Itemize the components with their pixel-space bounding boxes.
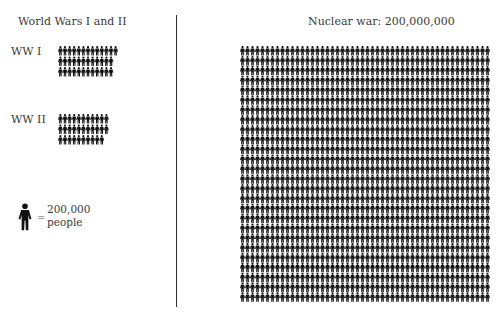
ww2-label: WW II [11, 113, 46, 126]
person-mark [480, 292, 485, 302]
person-mark [295, 282, 300, 292]
person-mark [310, 184, 315, 194]
person-mark [360, 233, 365, 243]
person-mark [400, 253, 405, 263]
person-mark [340, 76, 345, 86]
person-mark [250, 292, 255, 302]
person-mark [285, 145, 290, 155]
person-mark [280, 115, 285, 125]
person-mark [385, 76, 390, 86]
person-mark [240, 76, 245, 86]
person-mark [245, 164, 250, 174]
person-mark [425, 174, 430, 184]
person-mark [365, 204, 370, 214]
person-mark [370, 154, 375, 164]
person-mark [310, 125, 315, 135]
person-mark [395, 46, 400, 56]
person-mark [440, 154, 445, 164]
person-mark [72, 46, 77, 55]
person-mark [430, 135, 435, 145]
person-mark [260, 273, 265, 283]
person-mark [395, 164, 400, 174]
person-mark [415, 292, 420, 302]
person-mark [330, 282, 335, 292]
person-mark [240, 46, 245, 56]
person-mark [290, 154, 295, 164]
person-mark [420, 243, 425, 253]
person-mark [355, 253, 360, 263]
person-mark [445, 56, 450, 66]
person-mark [290, 66, 295, 76]
person-mark [475, 273, 480, 283]
person-mark [385, 95, 390, 105]
person-mark [485, 282, 490, 292]
person-mark [265, 125, 270, 135]
person-mark [335, 282, 340, 292]
person-mark [360, 214, 365, 224]
person-mark [340, 154, 345, 164]
person-mark [445, 243, 450, 253]
person-mark [415, 243, 420, 253]
person-mark [58, 114, 63, 123]
person-mark [370, 194, 375, 204]
person-mark [465, 66, 470, 76]
person-mark [310, 85, 315, 95]
person-mark [395, 95, 400, 105]
person-mark [380, 164, 385, 174]
person-mark [450, 273, 455, 283]
person-mark [480, 154, 485, 164]
person-mark [275, 292, 280, 302]
person-mark [325, 204, 330, 214]
person-mark [485, 95, 490, 105]
person-mark [310, 115, 315, 125]
person-mark [375, 243, 380, 253]
person-mark [295, 105, 300, 115]
person-mark [390, 243, 395, 253]
person-mark [335, 154, 340, 164]
person-mark [67, 46, 72, 55]
person-mark [395, 223, 400, 233]
person-mark [275, 194, 280, 204]
person-mark [280, 214, 285, 224]
person-mark [425, 105, 430, 115]
person-mark [390, 263, 395, 273]
person-mark [390, 115, 395, 125]
person-mark [470, 204, 475, 214]
person-mark [315, 105, 320, 115]
person-mark [250, 66, 255, 76]
person-mark [340, 85, 345, 95]
person-mark [250, 56, 255, 66]
person-mark [460, 115, 465, 125]
person-mark [104, 125, 109, 134]
person-mark [320, 125, 325, 135]
person-mark [245, 135, 250, 145]
person-mark [430, 46, 435, 56]
person-mark [485, 263, 490, 273]
person-mark [320, 253, 325, 263]
person-mark [455, 46, 460, 56]
person-mark [330, 263, 335, 273]
person-mark [245, 85, 250, 95]
person-mark [360, 253, 365, 263]
person-mark [290, 243, 295, 253]
person-mark [113, 46, 118, 55]
person-mark [265, 263, 270, 273]
person-mark [460, 243, 465, 253]
person-mark [460, 184, 465, 194]
person-mark [410, 154, 415, 164]
person-mark [385, 125, 390, 135]
person-mark [63, 135, 68, 144]
person-mark [410, 135, 415, 145]
person-mark [370, 76, 375, 86]
person-mark [465, 292, 470, 302]
person-mark [380, 233, 385, 243]
person-mark [430, 253, 435, 263]
person-mark [255, 243, 260, 253]
person-mark [465, 154, 470, 164]
person-mark [280, 253, 285, 263]
person-mark [460, 46, 465, 56]
person-mark [295, 125, 300, 135]
person-mark [355, 292, 360, 302]
person-mark [305, 233, 310, 243]
person-mark [265, 243, 270, 253]
